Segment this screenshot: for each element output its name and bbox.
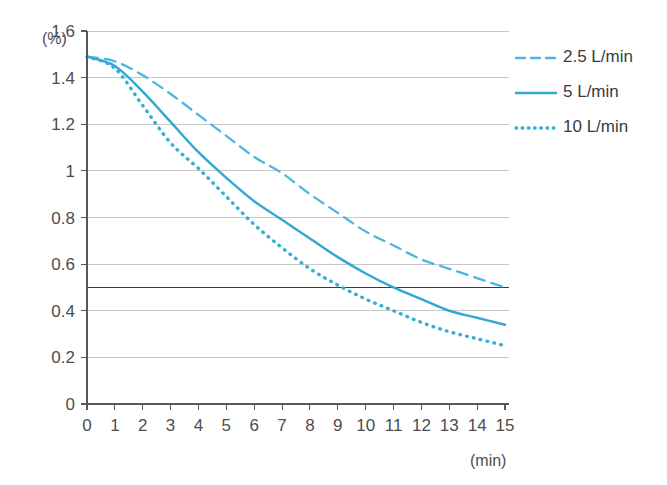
legend-label-1: 5 L/min bbox=[563, 82, 619, 101]
y-tick-label: 1 bbox=[66, 162, 75, 181]
y-tick-label: 0.6 bbox=[51, 255, 75, 274]
y-tick-label: 1.2 bbox=[51, 115, 75, 134]
x-tick-label: 12 bbox=[412, 416, 431, 435]
y-tick-label: 0.4 bbox=[51, 302, 75, 321]
y-tick-label: 0.2 bbox=[51, 348, 75, 367]
x-tick-label: 2 bbox=[138, 416, 147, 435]
x-tick-label: 10 bbox=[356, 416, 375, 435]
legend-label-2: 10 L/min bbox=[563, 117, 628, 136]
x-tick-label: 5 bbox=[222, 416, 231, 435]
series-line-0 bbox=[87, 57, 505, 288]
x-tick-label: 6 bbox=[249, 416, 258, 435]
y-tick-label: 0 bbox=[66, 395, 75, 414]
x-axis-unit-label: (min) bbox=[470, 452, 506, 469]
series-line-1 bbox=[87, 57, 505, 325]
x-tick-label: 4 bbox=[194, 416, 203, 435]
legend: 2.5 L/min5 L/min10 L/min bbox=[516, 47, 633, 136]
x-axis-ticks: 0123456789101112131415 bbox=[82, 404, 514, 435]
x-tick-label: 1 bbox=[110, 416, 119, 435]
x-tick-label: 15 bbox=[496, 416, 515, 435]
y-tick-label: 1.4 bbox=[51, 69, 75, 88]
x-tick-label: 0 bbox=[82, 416, 91, 435]
y-tick-label: 0.8 bbox=[51, 209, 75, 228]
series-lines bbox=[87, 57, 505, 346]
x-tick-label: 14 bbox=[468, 416, 487, 435]
gridlines bbox=[87, 31, 509, 404]
y-axis-ticks: 00.20.40.60.811.21.41.6 bbox=[51, 22, 87, 414]
x-tick-label: 3 bbox=[166, 416, 175, 435]
x-tick-label: 13 bbox=[440, 416, 459, 435]
x-tick-label: 9 bbox=[333, 416, 342, 435]
legend-label-0: 2.5 L/min bbox=[563, 47, 633, 66]
y-axis-unit-label: (%) bbox=[42, 30, 67, 47]
x-tick-label: 11 bbox=[385, 416, 403, 435]
x-tick-label: 8 bbox=[305, 416, 314, 435]
x-tick-label: 7 bbox=[277, 416, 286, 435]
line-chart: 00.20.40.60.811.21.41.6 0123456789101112… bbox=[0, 0, 667, 485]
chart-container: 00.20.40.60.811.21.41.6 0123456789101112… bbox=[0, 0, 667, 485]
